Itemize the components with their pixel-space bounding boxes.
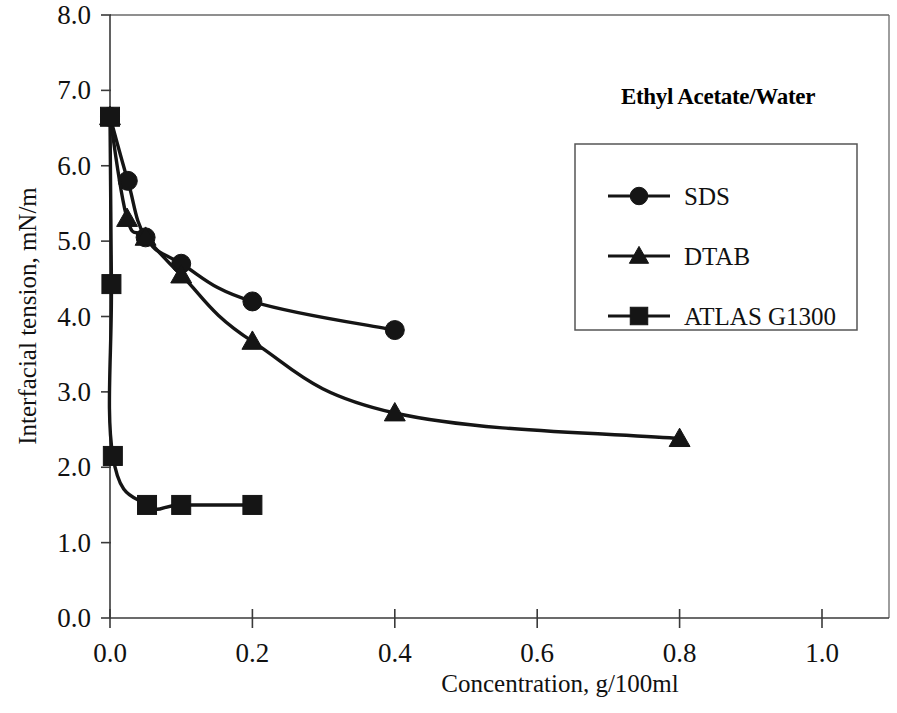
y-tick-label: 3.0 [57, 377, 91, 407]
y-tick-label: 0.0 [57, 603, 91, 633]
chart-figure: 0.01.02.03.04.05.06.07.08.0 0.00.20.40.6… [0, 0, 897, 713]
data-marker-square [172, 495, 191, 514]
x-tick-label: 0.8 [663, 638, 697, 668]
x-tick-label: 1.0 [805, 638, 839, 668]
series-line [110, 117, 680, 439]
y-tick-label: 2.0 [57, 452, 91, 482]
x-tick-label: 0.4 [378, 638, 412, 668]
y-axis-tick-labels: 0.01.02.03.04.05.06.07.08.0 [57, 0, 91, 633]
data-marker-circle [243, 292, 262, 311]
data-series-layer [100, 106, 691, 514]
data-marker-circle [630, 187, 647, 204]
x-tick-label: 0.0 [93, 638, 127, 668]
x-axis-tick-labels: 0.00.20.40.60.81.0 [93, 638, 839, 668]
data-marker-circle [385, 321, 404, 340]
legend-item-sds[interactable]: SDS [608, 183, 730, 210]
x-tick-label: 0.6 [520, 638, 554, 668]
legend-item-dtab[interactable]: DTAB [608, 243, 750, 270]
legend-item-label: SDS [684, 183, 730, 210]
data-marker-square [103, 446, 122, 465]
y-tick-label: 7.0 [57, 75, 91, 105]
interfacial-tension-line-chart: 0.01.02.03.04.05.06.07.08.0 0.00.20.40.6… [0, 0, 897, 713]
y-tick-label: 1.0 [57, 528, 91, 558]
y-tick-label: 6.0 [57, 151, 91, 181]
series-dtab [100, 106, 691, 446]
legend-item-label: ATLAS G1300 [684, 303, 836, 330]
legend: Ethyl Acetate/Water SDSDTABATLAS G1300 [575, 84, 857, 330]
y-tick-label: 5.0 [57, 226, 91, 256]
legend-title: Ethyl Acetate/Water [621, 84, 815, 109]
y-axis [101, 15, 111, 618]
data-marker-square [101, 107, 120, 126]
data-marker-square [630, 307, 647, 324]
y-tick-label: 8.0 [57, 0, 91, 30]
data-marker-square [102, 275, 121, 294]
y-axis-title: Interfacial tension, mN/m [14, 187, 41, 445]
data-marker-square [243, 495, 262, 514]
legend-item-label: DTAB [684, 243, 750, 270]
data-marker-triangle [242, 331, 263, 349]
y-tick-label: 4.0 [57, 302, 91, 332]
legend-item-atlas-g1300[interactable]: ATLAS G1300 [608, 303, 836, 330]
series-sds [101, 107, 405, 339]
data-marker-square [138, 495, 157, 514]
x-tick-label: 0.2 [236, 638, 270, 668]
x-axis-title: Concentration, g/100ml [441, 670, 679, 697]
x-axis [110, 609, 889, 628]
